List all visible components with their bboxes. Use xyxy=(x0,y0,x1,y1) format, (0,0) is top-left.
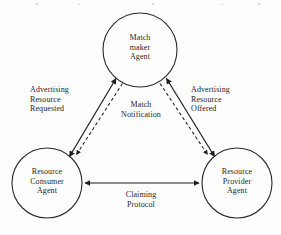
advertising-resource-offered-label-line2: Resource xyxy=(191,95,253,105)
claiming-protocol-label: Claiming Protocol xyxy=(104,190,178,209)
advertising-resource-offered-label-line1: Advertising xyxy=(191,85,253,95)
advertising-resource-requested-label: Advertising Resource Requested xyxy=(30,85,92,114)
advertising-resource-requested-label-line3: Requested xyxy=(30,104,92,114)
advertising-resource-requested-label-line1: Advertising xyxy=(30,85,92,95)
advertising-resource-offered-label: Advertising Resource Offered xyxy=(191,85,253,114)
match-notification-label-line2: Notification xyxy=(104,110,178,120)
claiming-protocol-label-line1: Claiming xyxy=(104,190,178,200)
diagram-canvas: Match maker Agent Resource Consumer Agen… xyxy=(0,0,281,235)
resource-provider-agent-circle xyxy=(202,148,272,218)
advertising-resource-requested-label-line2: Resource xyxy=(30,95,92,105)
match-notification-label-line1: Match xyxy=(104,100,178,110)
resource-consumer-agent-circle xyxy=(12,148,82,218)
matchmaker-agent-circle xyxy=(103,13,177,87)
claiming-protocol-label-line2: Protocol xyxy=(104,200,178,210)
match-notification-label: Match Notification xyxy=(104,100,178,119)
advertising-resource-offered-label-line3: Offered xyxy=(191,104,253,114)
